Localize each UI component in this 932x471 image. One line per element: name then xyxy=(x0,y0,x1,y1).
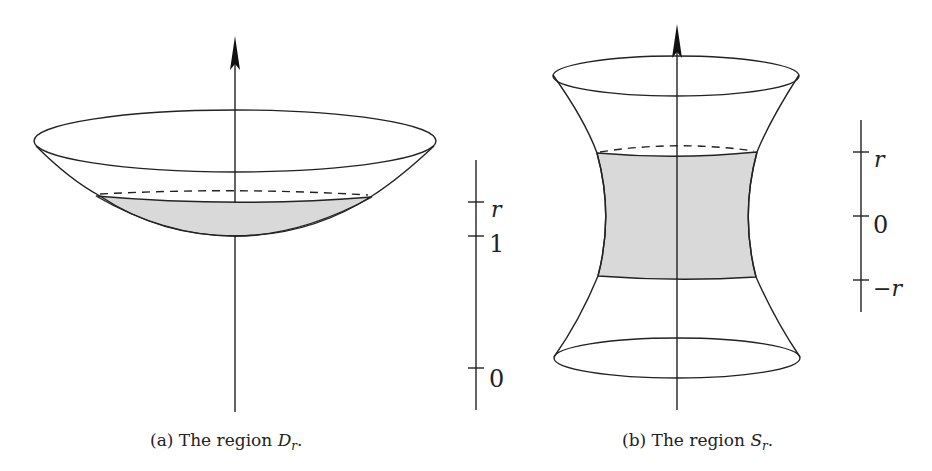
dashed-level-line-a xyxy=(100,191,368,195)
hyperboloid-left-side xyxy=(553,75,606,357)
tick-label-0-b: 0 xyxy=(873,211,888,239)
scale-bar-a: r 1 0 xyxy=(468,160,504,410)
caption-a: (a) The region Dr. xyxy=(150,430,302,453)
tick-label-r-b: r xyxy=(874,147,886,172)
scale-bar-b: r 0 −r xyxy=(853,120,903,312)
figure-a-paraboloid xyxy=(34,36,436,412)
tick-label-0-a: 0 xyxy=(489,365,504,393)
figure-b-hyperboloid xyxy=(553,24,800,410)
hyperboloid-right-side xyxy=(748,75,800,357)
tick-label-neg-r-b: −r xyxy=(873,276,903,301)
tick-label-r-a: r xyxy=(491,197,503,222)
tick-label-1-a: 1 xyxy=(489,230,504,258)
top-rim-ellipse-b xyxy=(553,56,799,96)
figure-canvas: r 1 0 (a) The region Dr. r 0 −r (b) The … xyxy=(0,0,932,471)
caption-b: (b) The region Sr. xyxy=(622,430,773,453)
